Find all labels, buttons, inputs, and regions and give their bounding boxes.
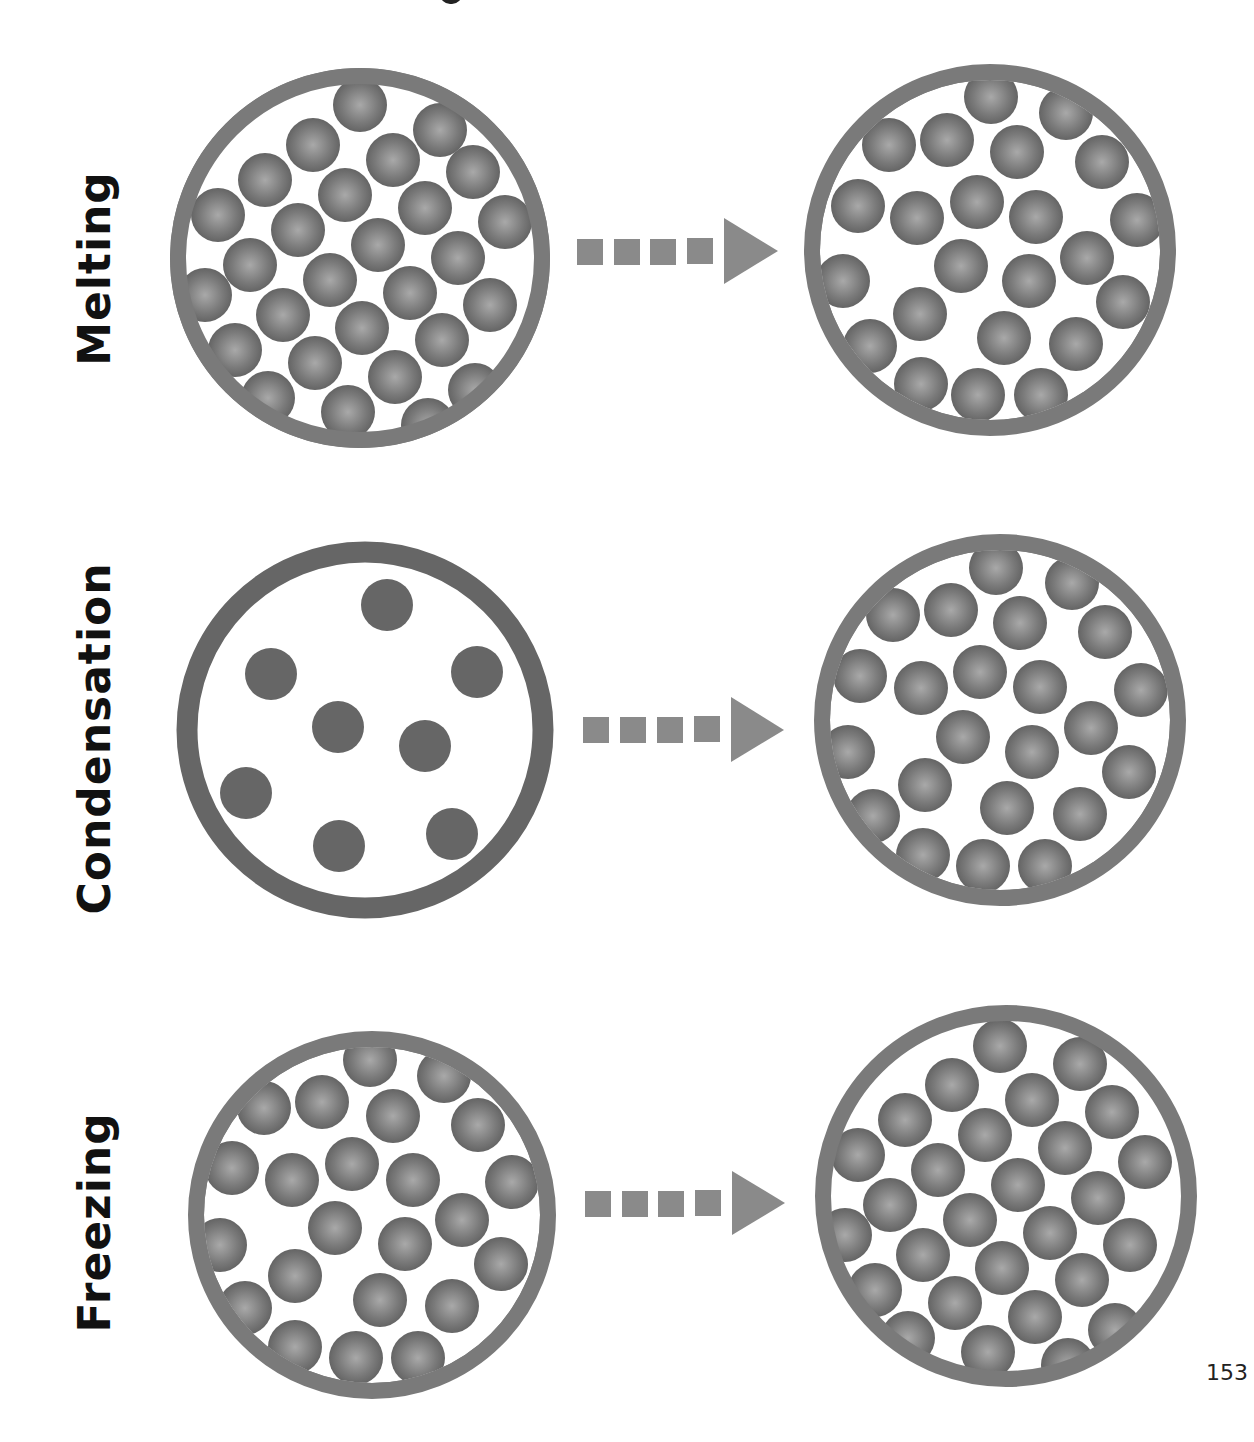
dashed-right-arrow-icon bbox=[577, 218, 778, 284]
gas-container-condensation bbox=[187, 552, 543, 908]
solid-container-melting bbox=[170, 68, 550, 452]
gas-particles bbox=[220, 579, 503, 872]
dashed-right-arrow-icon bbox=[583, 697, 784, 762]
states-of-matter-diagram bbox=[0, 0, 1254, 1442]
page-number: 153 bbox=[1206, 1360, 1248, 1385]
dashed-right-arrow-icon bbox=[585, 1171, 785, 1235]
solid-container-freezing bbox=[816, 1006, 1196, 1392]
liquid-container-condensation bbox=[815, 535, 1185, 905]
liquid-container-melting bbox=[805, 65, 1175, 435]
liquid-container-freezing bbox=[189, 1032, 555, 1398]
